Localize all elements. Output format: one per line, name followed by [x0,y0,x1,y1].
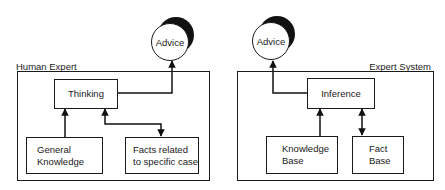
facts-line1: Facts related [133,144,198,156]
knowledge-base-node: Knowledge Base [266,136,338,174]
fact-base-node: Fact Base [352,136,404,174]
advice-circle: Advice [151,23,189,61]
knowledge-base-line1: Knowledge [282,143,329,155]
general-knowledge-line2: Knowledge [37,156,84,168]
advice-circle: Advice [252,22,290,60]
thinking-node: Thinking [54,79,118,109]
general-knowledge-line1: General [37,144,84,156]
inference-label: Inference [308,79,374,108]
knowledge-base-line2: Base [282,155,329,167]
inference-node: Inference [307,78,375,109]
advice-node-right: Advice [252,22,290,60]
thinking-label: Thinking [55,80,117,108]
general-knowledge-node: General Knowledge [26,137,103,174]
facts-line2: to specific case [133,156,198,168]
fact-base-line1: Fact [369,143,391,155]
facts-specific-case-node: Facts related to specific case [125,137,199,174]
fact-base-line2: Base [369,155,391,167]
advice-node-left: Advice [151,23,189,61]
